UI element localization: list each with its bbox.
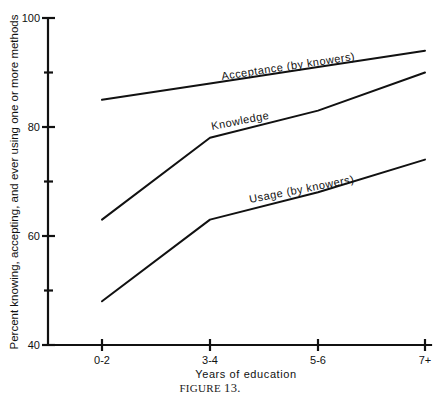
- x-tick-label-3-4: 3-4: [202, 354, 218, 366]
- series-label-usage: Usage (by knowers): [248, 173, 355, 205]
- series-label-knowledge: Knowledge: [210, 109, 270, 132]
- y-tick-label-100: 100: [22, 12, 40, 24]
- y-axis-title: Percent knowing, accepting, and ever usi…: [8, 14, 20, 349]
- series-line-usage: [102, 160, 425, 302]
- figure-caption-number: 13.: [224, 381, 241, 395]
- series-label-acceptance: Acceptance (by knowers): [221, 50, 356, 82]
- x-axis-title: Years of education: [195, 368, 297, 380]
- y-tick-label-40: 40: [28, 339, 40, 351]
- x-tick-label-7plus: 7+: [419, 354, 432, 366]
- y-tick-label-80: 80: [28, 121, 40, 133]
- x-tick-label-0-2: 0-2: [94, 354, 110, 366]
- figure-container: Percent knowing, accepting, and ever usi…: [0, 0, 437, 400]
- x-tick-label-5-6: 5-6: [310, 354, 326, 366]
- y-tick-label-60: 60: [28, 230, 40, 242]
- figure-caption: FIGURE 13.: [0, 381, 420, 396]
- line-chart: Percent knowing, accepting, and ever usi…: [0, 0, 437, 400]
- figure-caption-label: FIGURE: [179, 382, 221, 394]
